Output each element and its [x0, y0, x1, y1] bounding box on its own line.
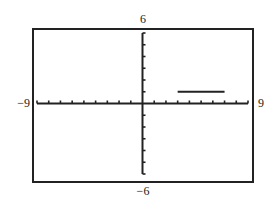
ymin-label: −6 [137, 184, 150, 198]
axes [37, 33, 248, 174]
xmax-label: 9 [258, 96, 264, 110]
xmin-label: −9 [17, 96, 30, 110]
graph-window: 6 −6 −9 9 [0, 0, 277, 198]
ymax-label: 6 [140, 12, 146, 26]
